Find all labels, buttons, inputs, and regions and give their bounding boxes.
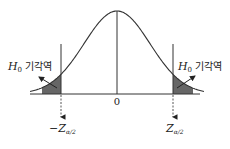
center-tick-label: 0 — [114, 96, 120, 107]
normal-distribution-diagram: H0 기각역 H0 기각역 0 −Zα/2 Zα/2 — [0, 0, 230, 149]
right-rejection-label: H0 기각역 — [177, 60, 222, 74]
left-critical-value-label: −Zα/2 — [49, 122, 76, 135]
right-critical-value-label: Zα/2 — [165, 122, 184, 135]
left-rejection-label: H0 기각역 — [7, 60, 52, 74]
